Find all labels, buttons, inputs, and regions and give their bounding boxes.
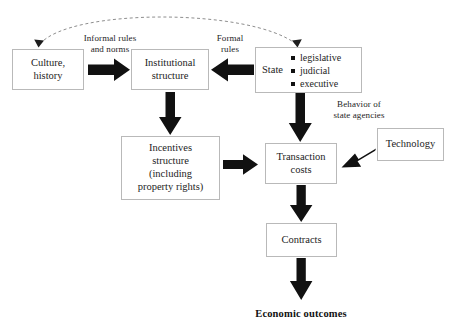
state-branch-legislative: legislative	[291, 51, 341, 64]
arrow-technology-to-transaction	[342, 149, 377, 168]
arrow-incentives-to-transaction	[223, 154, 258, 175]
node-state[interactable]: State legislative judicial executive	[255, 47, 362, 93]
arrow-contracts-to-outcomes	[290, 258, 313, 300]
arrow-state-to-transaction	[289, 93, 312, 142]
feedback-arrowhead-left	[34, 39, 44, 47]
node-incentives-structure-label: Incentives structure (including property…	[135, 142, 207, 193]
flow-diagram: Culture, history Institutional structure…	[0, 0, 453, 329]
edge-label-formal-rules: Formal rules	[205, 33, 255, 54]
node-transaction-costs-label: Transaction costs	[273, 151, 328, 177]
node-institutional-structure[interactable]: Institutional structure	[131, 49, 209, 90]
edge-label-behavior-of-state-agencies: Behavior of state agencies	[313, 99, 405, 120]
economic-outcomes-label: Economic outcomes	[231, 308, 371, 319]
node-contracts[interactable]: Contracts	[266, 223, 337, 257]
node-institutional-structure-label: Institutional structure	[142, 57, 199, 83]
state-branch-judicial: judicial	[291, 64, 341, 77]
node-contracts-label: Contracts	[278, 234, 324, 247]
node-incentives-structure[interactable]: Incentives structure (including property…	[121, 136, 220, 200]
node-culture-history[interactable]: Culture, history	[12, 49, 84, 90]
node-state-label: State	[262, 64, 291, 77]
arrow-state-to-institutional	[211, 58, 254, 81]
node-culture-history-label: Culture, history	[28, 57, 68, 83]
arrow-institutional-to-incentives	[159, 92, 182, 135]
arrow-transaction-to-contracts	[290, 185, 313, 222]
state-branch-list: legislative judicial executive	[291, 51, 341, 90]
node-transaction-costs[interactable]: Transaction costs	[265, 143, 337, 184]
arrow-culture-to-institutional	[88, 59, 130, 82]
node-technology[interactable]: Technology	[377, 128, 444, 161]
node-technology-label: Technology	[383, 138, 438, 151]
state-branch-executive: executive	[291, 77, 341, 90]
edge-label-informal-rules: Informal rules and norms	[70, 33, 150, 54]
